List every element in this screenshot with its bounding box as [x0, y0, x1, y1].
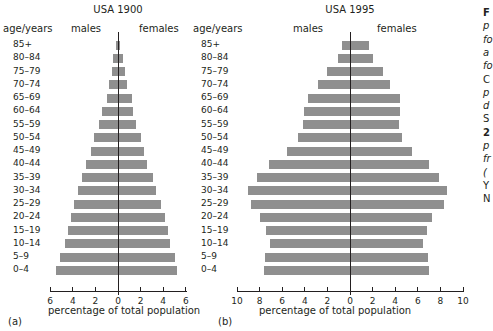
x-tick-label: 10: [227, 296, 247, 306]
x-tick: [282, 287, 283, 291]
caption-line: S: [483, 112, 489, 125]
female-bar: [350, 67, 383, 76]
female-bar: [118, 173, 153, 182]
center-axis-line: [350, 32, 351, 295]
caption-line: C: [483, 73, 490, 86]
x-tick: [327, 287, 328, 291]
age-group-label: 55–59: [201, 119, 228, 129]
male-bar: [251, 200, 350, 209]
x-tick: [350, 287, 351, 291]
caption-text: p: [483, 20, 489, 31]
caption-text: F: [483, 7, 490, 18]
age-group-label: 15–19: [13, 225, 40, 235]
male-bar: [248, 186, 350, 195]
x-axis-line: [50, 291, 187, 292]
age-group-label: 40–44: [13, 158, 40, 168]
age-group-label: 70–74: [201, 79, 228, 89]
female-bar: [350, 266, 429, 275]
x-tick: [417, 287, 418, 291]
age-group-label: 0–4: [13, 264, 29, 274]
female-bar: [350, 80, 390, 89]
x-tick: [72, 287, 73, 291]
center-axis-line: [118, 32, 119, 295]
caption-text: C: [483, 74, 490, 85]
male-bar: [270, 239, 350, 248]
female-bar: [350, 173, 439, 182]
caption-text: fr: [483, 153, 491, 164]
male-bar: [102, 107, 118, 116]
caption-line: p: [483, 139, 489, 152]
chart-title: USA 1900: [68, 4, 168, 15]
caption-line: Y: [483, 179, 489, 192]
caption-text: N: [483, 193, 490, 204]
female-bar: [350, 160, 429, 169]
age-group-label: 60–64: [201, 105, 228, 115]
x-tick: [440, 287, 441, 291]
chart-title: USA 1995: [300, 4, 400, 15]
caption-line: fr: [483, 152, 491, 165]
age-group-label: 75–79: [201, 66, 228, 76]
male-bar: [56, 266, 118, 275]
male-bar: [303, 120, 350, 129]
female-bar: [118, 253, 175, 262]
x-axis-label: percentage of total population: [259, 305, 411, 316]
female-bar: [350, 239, 423, 248]
age-group-label: 10–14: [13, 238, 40, 248]
female-bar: [350, 94, 400, 103]
x-tick: [372, 287, 373, 291]
age-group-label: 20–24: [201, 211, 228, 221]
caption-text: Y: [483, 180, 489, 191]
females-header: females: [377, 23, 417, 34]
x-axis-line: [237, 291, 464, 292]
female-bar: [350, 41, 369, 50]
age-group-label: 50–54: [13, 132, 40, 142]
age-axis-header: age/years: [193, 23, 243, 34]
age-group-label: 0–4: [201, 264, 217, 274]
female-bar: [350, 200, 444, 209]
age-axis-header: age/years: [3, 23, 53, 34]
male-bar: [265, 253, 350, 262]
female-bar: [118, 107, 133, 116]
caption-text: p: [483, 140, 489, 151]
male-bar: [91, 147, 118, 156]
female-bar: [118, 80, 127, 89]
female-bar: [350, 133, 402, 142]
female-bar: [350, 253, 428, 262]
age-group-label: 75–79: [13, 66, 40, 76]
female-bar: [118, 160, 147, 169]
male-bar: [308, 94, 350, 103]
age-group-label: 65–69: [201, 92, 228, 102]
x-tick: [395, 287, 396, 291]
age-group-label: 85+: [13, 39, 32, 49]
x-tick: [237, 287, 238, 291]
females-header: females: [139, 23, 179, 34]
male-bar: [287, 147, 350, 156]
male-bar: [60, 253, 118, 262]
caption-line: fo: [483, 59, 493, 72]
female-bar: [350, 120, 399, 129]
female-bar: [118, 94, 132, 103]
male-bar: [260, 213, 350, 222]
female-bar: [350, 54, 373, 63]
age-group-label: 60–64: [13, 105, 40, 115]
male-bar: [86, 160, 118, 169]
caption-text: fo: [483, 34, 493, 45]
female-bar: [350, 186, 447, 195]
age-group-label: 20–24: [13, 211, 40, 221]
panel-label: (b): [218, 316, 232, 327]
age-group-label: 10–14: [201, 238, 228, 248]
age-group-label: 35–39: [13, 172, 40, 182]
age-group-label: 85+: [201, 39, 220, 49]
age-group-label: 50–54: [201, 132, 228, 142]
male-bar: [107, 94, 118, 103]
female-bar: [118, 67, 125, 76]
female-bar: [350, 226, 427, 235]
x-tick: [463, 287, 464, 291]
x-tick: [259, 287, 260, 291]
caption-line: d: [483, 99, 489, 112]
male-bar: [74, 200, 118, 209]
male-bar: [82, 173, 118, 182]
caption-text: a: [483, 47, 489, 58]
male-bar: [68, 226, 118, 235]
x-tick: [140, 287, 141, 291]
